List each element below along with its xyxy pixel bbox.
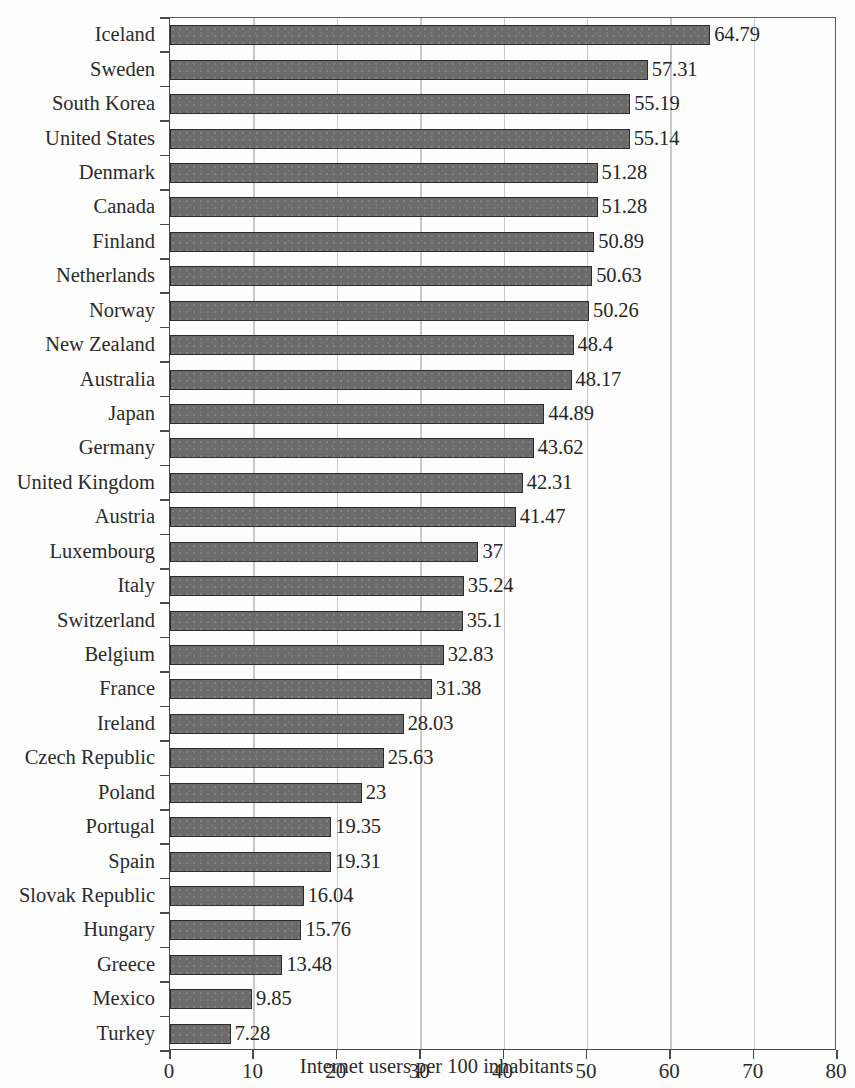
bar-value-label: 19.31 (335, 851, 381, 872)
bar-value-label: 57.31 (652, 59, 698, 79)
y-axis-label: Denmark (79, 162, 155, 183)
bar[interactable] (170, 438, 534, 458)
bar[interactable] (170, 404, 544, 424)
y-axis-label: Slovak Republic (19, 885, 155, 906)
bar-value-label: 15.76 (305, 920, 351, 941)
bar-row: 50.63 (170, 259, 835, 293)
bar[interactable] (170, 60, 648, 80)
bar[interactable] (170, 852, 331, 872)
bar-row: 57.31 (170, 52, 835, 86)
bar-row: 32.83 (170, 638, 835, 672)
bar[interactable] (170, 576, 464, 596)
bar[interactable] (170, 25, 710, 45)
bar-row: 50.26 (170, 293, 835, 327)
bar-value-label: 9.85 (256, 989, 291, 1010)
y-axis-label: Iceland (95, 24, 155, 45)
y-axis-tick (160, 499, 169, 501)
bar-value-label: 19.35 (335, 816, 381, 837)
bar[interactable] (170, 507, 516, 527)
y-axis-label: Belgium (84, 644, 155, 665)
bar[interactable] (170, 679, 432, 699)
bar[interactable] (170, 1024, 231, 1044)
bar[interactable] (170, 783, 362, 803)
y-axis-tick (160, 534, 169, 536)
bar-value-label: 16.04 (308, 885, 354, 906)
bar[interactable] (170, 817, 331, 837)
bar-row: 44.89 (170, 397, 835, 431)
y-axis-label: Finland (92, 231, 155, 252)
y-axis-label: Portugal (86, 816, 155, 837)
y-axis-tick (160, 189, 169, 191)
bar-value-label: 50.63 (596, 266, 642, 287)
bar-row: 37 (170, 535, 835, 569)
bar-row: 35.1 (170, 603, 835, 637)
bar-value-label: 31.38 (436, 679, 482, 700)
bar[interactable] (170, 129, 630, 149)
bar-row: 42.31 (170, 466, 835, 500)
bar[interactable] (170, 94, 630, 114)
y-axis-tick (160, 465, 169, 467)
bar-value-label: 35.1 (467, 610, 502, 631)
y-axis-tick (160, 947, 169, 949)
bar[interactable] (170, 645, 444, 665)
bar[interactable] (170, 886, 304, 906)
bar-value-label: 13.48 (286, 954, 332, 975)
bar[interactable] (170, 266, 592, 286)
y-axis-tick (160, 86, 169, 88)
bar[interactable] (170, 611, 463, 631)
bar-row: 55.19 (170, 87, 835, 121)
bar[interactable] (170, 989, 252, 1009)
y-axis-tick (160, 1050, 169, 1052)
y-axis-tick (160, 912, 169, 914)
bar[interactable] (170, 197, 598, 217)
y-axis-label: Turkey (97, 1023, 155, 1044)
plot-area: 64.7957.3155.1955.1451.2851.2850.8950.63… (169, 17, 836, 1050)
bar[interactable] (170, 748, 384, 768)
y-axis-tick (160, 775, 169, 777)
bar-chart: 64.7957.3155.1955.1451.2851.2850.8950.63… (0, 0, 855, 1088)
bar-value-label: 35.24 (468, 575, 514, 596)
bar[interactable] (170, 714, 404, 734)
bar-row: 51.28 (170, 190, 835, 224)
bar[interactable] (170, 955, 282, 975)
y-axis-tick (160, 1016, 169, 1018)
y-axis-label: Czech Republic (25, 747, 155, 768)
y-axis-label: Italy (117, 575, 155, 596)
y-axis-label: Canada (94, 196, 155, 217)
bar-value-label: 32.83 (448, 644, 494, 665)
bar-row: 48.4 (170, 328, 835, 362)
y-axis-tick (160, 292, 169, 294)
y-axis-label: Poland (98, 782, 155, 803)
y-axis-label: Spain (108, 850, 155, 871)
bar[interactable] (170, 542, 478, 562)
y-axis-tick (160, 602, 169, 604)
bar-row: 41.47 (170, 500, 835, 534)
bar[interactable] (170, 301, 589, 321)
bar[interactable] (170, 920, 301, 940)
bar-row: 55.14 (170, 121, 835, 155)
y-axis-label: South Korea (52, 93, 155, 114)
y-axis-tick (160, 120, 169, 122)
y-axis-label: United States (45, 127, 155, 148)
bar[interactable] (170, 473, 523, 493)
bar[interactable] (170, 232, 594, 252)
bar-row: 28.03 (170, 707, 835, 741)
bar[interactable] (170, 163, 598, 183)
y-axis-tick (160, 361, 169, 363)
bar-row: 64.79 (170, 18, 835, 52)
y-axis-label: New Zealand (45, 334, 155, 355)
bar-row: 31.38 (170, 672, 835, 706)
bar-value-label: 55.19 (634, 93, 680, 114)
bar-row: 19.35 (170, 810, 835, 844)
y-axis-tick (160, 224, 169, 226)
bar[interactable] (170, 335, 574, 355)
y-axis-label: Austria (95, 506, 155, 527)
bar-value-label: 41.47 (520, 507, 566, 528)
y-axis-category-labels: IcelandSwedenSouth KoreaUnited StatesDen… (0, 17, 169, 1050)
y-axis-label: Mexico (92, 988, 155, 1009)
bar-value-label: 51.28 (602, 162, 648, 183)
bar[interactable] (170, 370, 572, 390)
y-axis-label: France (99, 678, 155, 699)
bar-row: 23 (170, 776, 835, 810)
bar-row: 7.28 (170, 1017, 835, 1051)
